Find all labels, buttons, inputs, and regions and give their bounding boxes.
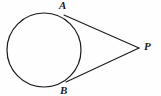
tangent-line-b-to-p [66, 48, 139, 82]
point-label-a: A [59, 0, 66, 11]
point-label-b: B [60, 85, 67, 96]
geometry-canvas [0, 0, 161, 96]
circle-shape [7, 13, 81, 87]
tangent-line-a-to-p [64, 15, 139, 48]
geometry-figure: A B P [0, 0, 161, 96]
point-label-p: P [144, 41, 151, 52]
